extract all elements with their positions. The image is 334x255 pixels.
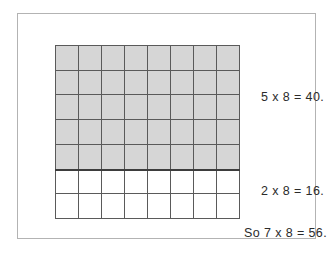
grid-cell-shaded [217, 46, 239, 70]
array-grid [55, 45, 240, 219]
grid-cell-shaded [56, 95, 78, 119]
grid-cell-shaded [171, 46, 193, 70]
grid-cell-shaded [171, 145, 193, 169]
grid-cell-shaded [217, 120, 239, 144]
grid-cell-shaded [79, 145, 101, 169]
figure-canvas: 5 x 8 = 40. 2 x 8 = 16. So 7 x 8 = 56. [0, 0, 334, 255]
grid-cell-unshaded [171, 194, 193, 218]
grid-cell-shaded [56, 120, 78, 144]
grid-cell-shaded [56, 145, 78, 169]
grid-cell-shaded [171, 120, 193, 144]
grid-cell-shaded [194, 46, 216, 70]
grid-cell-shaded [194, 71, 216, 95]
grid-cell-unshaded [171, 170, 193, 194]
grid-cell-shaded [79, 120, 101, 144]
grid-cell-shaded [194, 95, 216, 119]
grid-cell-shaded [125, 46, 147, 70]
grid-cell-unshaded [79, 170, 101, 194]
grid-cell-shaded [102, 120, 124, 144]
grid-cell-shaded [148, 95, 170, 119]
grid-cell-shaded [125, 145, 147, 169]
grid-cell-shaded [56, 71, 78, 95]
grid-cell-unshaded [217, 170, 239, 194]
grid-cell-shaded [102, 71, 124, 95]
grid-cell-unshaded [56, 194, 78, 218]
grid-cell-unshaded [79, 194, 101, 218]
grid-cell-shaded [148, 120, 170, 144]
grid-cell-shaded [79, 46, 101, 70]
annotation-unshaded-part: 2 x 8 = 16. [261, 184, 324, 198]
grid-cell-shaded [148, 46, 170, 70]
grid-cell-unshaded [194, 170, 216, 194]
grid-cell-unshaded [102, 170, 124, 194]
grid-cell-shaded [194, 120, 216, 144]
grid-cell-shaded [79, 95, 101, 119]
grid-cell-shaded [125, 95, 147, 119]
grid-cell-shaded [79, 71, 101, 95]
grid-cell-unshaded [194, 194, 216, 218]
grid-cell-unshaded [148, 194, 170, 218]
grid-cell-unshaded [217, 194, 239, 218]
grid-cell-shaded [171, 95, 193, 119]
grid-cell-unshaded [125, 170, 147, 194]
grid-cell-unshaded [148, 170, 170, 194]
grid-cell-shaded [171, 71, 193, 95]
grid-cell-shaded [217, 145, 239, 169]
grid-cell-shaded [194, 145, 216, 169]
grid-cell-shaded [217, 71, 239, 95]
grid-cell-unshaded [102, 194, 124, 218]
grid-cell-shaded [148, 145, 170, 169]
grid-cell-shaded [217, 95, 239, 119]
grid-cell-shaded [102, 46, 124, 70]
grid-cell-shaded [102, 95, 124, 119]
grid-cell-shaded [56, 46, 78, 70]
grid-cell-shaded [102, 145, 124, 169]
grid-cell-unshaded [56, 170, 78, 194]
grid-cell-shaded [148, 71, 170, 95]
annotation-total: So 7 x 8 = 56. [244, 226, 327, 240]
figure-frame: 5 x 8 = 40. 2 x 8 = 16. So 7 x 8 = 56. [17, 13, 316, 239]
grid-cell-unshaded [125, 194, 147, 218]
grid-cell-shaded [125, 71, 147, 95]
annotation-shaded-part: 5 x 8 = 40. [261, 90, 324, 104]
grid-cell-shaded [125, 120, 147, 144]
